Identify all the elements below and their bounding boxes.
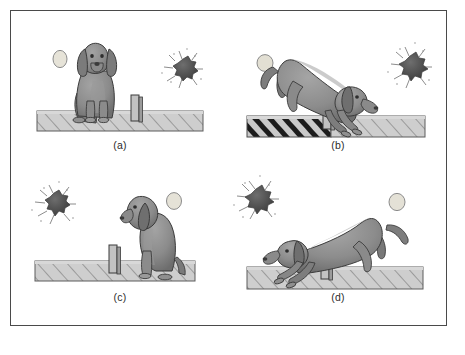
shock-stimulus-icon (233, 175, 279, 219)
shock-stimulus-icon (387, 42, 432, 88)
panel-c-scene (11, 169, 229, 327)
panel-label-d: (d) (229, 291, 447, 303)
barrier (109, 245, 121, 274)
panel-b: (b) (229, 11, 447, 169)
panel-d: (d) (229, 169, 447, 327)
panel-a: (a) (11, 11, 229, 169)
shock-stimulus-icon (31, 181, 76, 224)
floor-surface (247, 267, 423, 289)
panel-label-b: (b) (229, 139, 447, 151)
panel-label-a: (a) (11, 139, 229, 151)
light-stimulus-icon (389, 193, 405, 210)
floor-surface (37, 111, 203, 131)
panel-d-scene (229, 169, 447, 327)
figure-frame: (a) (10, 10, 447, 326)
panel-label-c: (c) (11, 291, 229, 303)
light-stimulus-icon (53, 50, 67, 67)
barrier (131, 95, 143, 122)
shock-stimulus-icon (161, 48, 203, 88)
floor-electrified-left (247, 116, 331, 137)
dog-figure (73, 43, 117, 123)
light-stimulus-icon (167, 193, 182, 210)
panel-c: (c) (11, 169, 229, 327)
